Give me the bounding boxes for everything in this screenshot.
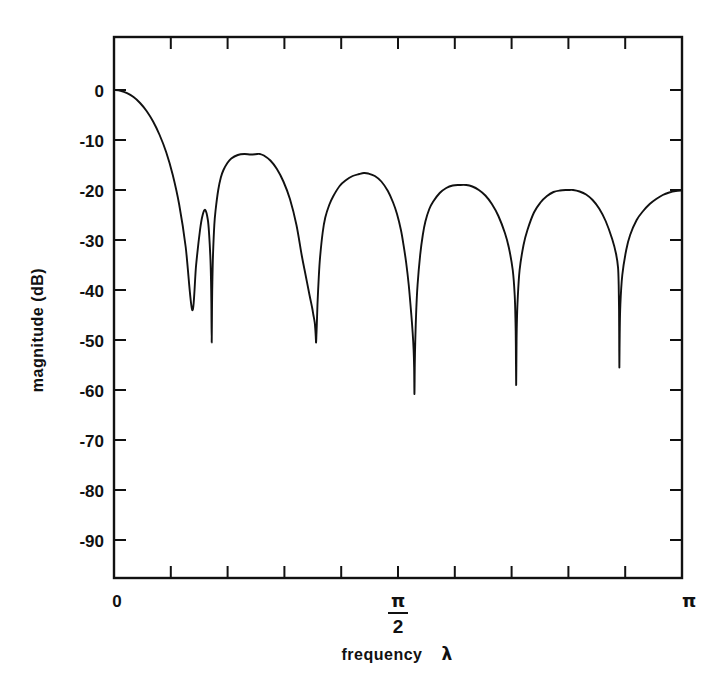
- y-axis-ticks: [114, 90, 126, 540]
- figure-container: 0 -10 -20 -30 -40 -50 -60 -70 -80 -90 ma…: [0, 0, 721, 680]
- pi-numerator: π: [391, 590, 405, 611]
- y-tick-label: -60: [79, 382, 104, 401]
- magnitude-response-chart: 0 -10 -20 -30 -40 -50 -60 -70 -80 -90 ma…: [0, 0, 721, 680]
- x-axis-title: frequency λ: [342, 644, 453, 664]
- y-tick-label: -50: [79, 332, 104, 351]
- y-axis-ticks-right: [670, 90, 682, 540]
- y-tick-label: -30: [79, 232, 104, 251]
- x-tick-label-pi-over-two: π 2: [388, 590, 408, 637]
- x-axis-title-text: frequency: [342, 646, 423, 663]
- y-tick-label: -70: [79, 432, 104, 451]
- x-axis-ticks-top: [171, 37, 625, 49]
- y-tick-labels: 0 -10 -20 -30 -40 -50 -60 -70 -80 -90: [79, 82, 104, 551]
- pi-denominator: 2: [393, 616, 404, 637]
- y-tick-label: -90: [79, 532, 104, 551]
- y-tick-label: -10: [79, 132, 104, 151]
- plot-frame: [114, 37, 682, 578]
- y-tick-label: -40: [79, 282, 104, 301]
- y-tick-label: 0: [95, 82, 104, 101]
- y-tick-label: -80: [79, 482, 104, 501]
- lambda-symbol: λ: [442, 644, 453, 664]
- x-tick-label-zero: 0: [112, 592, 121, 611]
- y-axis-title: magnitude (dB): [29, 268, 46, 392]
- x-axis-ticks-bottom: [171, 566, 625, 578]
- x-tick-label-pi: π: [682, 590, 696, 611]
- magnitude-curve: [114, 90, 682, 394]
- y-tick-label: -20: [79, 182, 104, 201]
